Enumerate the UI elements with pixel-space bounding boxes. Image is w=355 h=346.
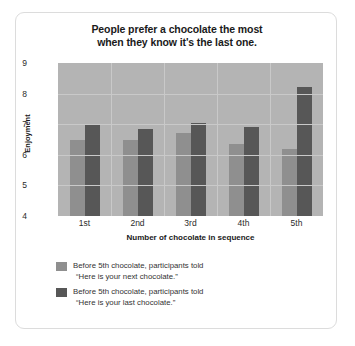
legend-next-line2: “Here is your next chocolate.” — [73, 272, 203, 283]
bar — [176, 133, 191, 216]
bar — [123, 140, 138, 217]
chart-legend: Before 5th chocolate, participants told … — [56, 261, 326, 313]
bar — [138, 129, 153, 216]
bar-group — [282, 63, 312, 216]
x-tick-label: 2nd — [120, 218, 156, 228]
x-tick-label: 5th — [279, 218, 315, 228]
y-tick-label: 7 — [7, 119, 27, 129]
bar-group — [229, 63, 259, 216]
legend-label-last: Before 5th chocolate, participants told … — [73, 287, 203, 308]
gridline-vertical — [164, 63, 165, 216]
legend-next-line1: Before 5th chocolate, participants told — [73, 261, 203, 272]
x-tick-label: 1st — [67, 218, 103, 228]
gridline — [58, 94, 323, 95]
legend-last-line1: Before 5th chocolate, participants told — [73, 287, 203, 298]
legend-label-next: Before 5th chocolate, participants told … — [73, 261, 203, 282]
x-axis-ticks: 1st2nd3rd4th5th — [58, 218, 323, 228]
x-tick-label: 3rd — [173, 218, 209, 228]
gridline — [58, 185, 323, 186]
bar-group — [176, 63, 206, 216]
bar-group — [70, 63, 100, 216]
gridline — [58, 155, 323, 156]
legend-item-last: Before 5th chocolate, participants told … — [56, 287, 326, 308]
gridline-vertical — [111, 63, 112, 216]
legend-item-next: Before 5th chocolate, participants told … — [56, 261, 326, 282]
y-tick-label: 6 — [7, 150, 27, 160]
gridline-vertical — [217, 63, 218, 216]
plot-area — [58, 63, 323, 216]
legend-last-line2: “Here is your last chocolate.” — [73, 298, 203, 309]
chart-card: People prefer a chocolate the most when … — [15, 12, 337, 329]
bar-group — [123, 63, 153, 216]
bar — [85, 124, 100, 216]
bar — [191, 123, 206, 216]
legend-swatch-last-icon — [56, 288, 67, 297]
y-tick-label: 8 — [7, 89, 27, 99]
bar — [297, 87, 312, 216]
x-tick-label: 4th — [226, 218, 262, 228]
bar — [70, 140, 85, 217]
bar — [244, 127, 259, 216]
y-tick-label: 9 — [7, 58, 27, 68]
gridline — [58, 124, 323, 125]
x-axis-label: Number of chocolate in sequence — [58, 233, 323, 242]
y-tick-label: 4 — [7, 211, 27, 221]
bar-groups — [58, 63, 323, 216]
gridline-vertical — [270, 63, 271, 216]
legend-swatch-next-icon — [56, 262, 67, 271]
y-tick-label: 5 — [7, 180, 27, 190]
bar — [282, 149, 297, 216]
